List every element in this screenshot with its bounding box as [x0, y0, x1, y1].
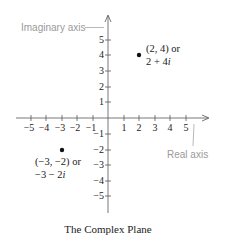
svg-text:−4: −4 [93, 175, 104, 186]
svg-text:−3: −3 [93, 159, 104, 170]
svg-text:1: 1 [122, 122, 127, 133]
point-2-4 [137, 53, 141, 57]
svg-text:1: 1 [99, 96, 104, 107]
svg-text:2: 2 [99, 81, 104, 92]
point-neg3-neg2-label-line2: −3 − 2i [35, 169, 66, 180]
svg-text:3: 3 [153, 122, 158, 133]
svg-text:−4: −4 [39, 122, 50, 133]
x-tick-labels: −5 −4 −3 −2 −1 1 2 3 4 5 [24, 122, 189, 133]
svg-text:−2: −2 [93, 144, 104, 155]
svg-text:−1: −1 [93, 128, 104, 139]
svg-text:−3: −3 [55, 122, 66, 133]
svg-text:4: 4 [168, 122, 173, 133]
svg-text:3: 3 [99, 65, 104, 76]
figure-caption: The Complex Plane [64, 223, 151, 235]
complex-plane-diagram: −5 −4 −3 −2 −1 1 2 3 4 5 5 4 3 2 1 −1 −2… [0, 0, 226, 238]
svg-text:−2: −2 [70, 122, 81, 133]
point-neg3-neg2 [60, 148, 64, 152]
point-2-4-label-line2: 2 + 4i [146, 56, 171, 67]
real-axis-label: Real axis [167, 149, 208, 160]
svg-text:4: 4 [99, 49, 104, 60]
svg-text:5: 5 [99, 34, 104, 45]
real-axis-leader [193, 124, 194, 146]
svg-text:2: 2 [137, 122, 142, 133]
svg-text:−5: −5 [93, 190, 104, 201]
point-2-4-label-line1: (2, 4) or [146, 43, 181, 55]
y-tick-labels: 5 4 3 2 1 −1 −2 −3 −4 −5 [93, 34, 104, 201]
svg-text:−5: −5 [24, 122, 35, 133]
point-neg3-neg2-label-line1: (−3, −2) or [35, 156, 81, 168]
imaginary-axis-label: Imaginary axis [21, 22, 85, 33]
svg-text:5: 5 [184, 122, 189, 133]
